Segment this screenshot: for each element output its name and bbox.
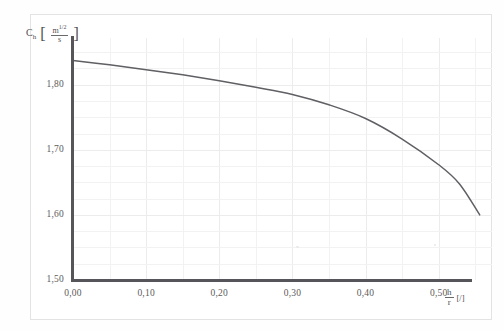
plot-area xyxy=(73,38,492,280)
y-unit-bracket-close: ] xyxy=(73,26,78,42)
y-axis-line xyxy=(71,36,74,282)
x-axis-line xyxy=(71,279,472,282)
x-tick-label: 0,20 xyxy=(199,288,239,298)
x-axis-title: h r [/] xyxy=(444,288,465,308)
data-line-ch xyxy=(73,61,480,215)
y-tick-label: 1,60 xyxy=(30,209,64,219)
x-axis-unit: [/] xyxy=(457,293,465,303)
scan-speck xyxy=(434,244,436,246)
x-axis-denominator: r xyxy=(446,298,453,307)
scan-speck xyxy=(296,246,299,248)
y-axis-title: Ch [ m1/2 s ] xyxy=(26,24,79,44)
y-axis-symbol: Ch xyxy=(26,27,36,41)
y-tick-label: 1,80 xyxy=(30,79,64,89)
x-tick-label: 0,10 xyxy=(126,288,166,298)
y-unit-bracket-open: [ xyxy=(40,26,45,42)
x-tick-label: 0,00 xyxy=(53,288,93,298)
y-tick-label: 1,70 xyxy=(30,144,64,154)
y-unit-denominator: s xyxy=(56,36,63,44)
y-unit-fraction: m1/2 s xyxy=(50,24,70,44)
y-tick-label: 1,50 xyxy=(30,274,64,284)
curve-ch xyxy=(73,38,492,280)
x-tick-label: 0,40 xyxy=(346,288,386,298)
x-tick-label: 0,30 xyxy=(272,288,312,298)
x-axis-fraction: h r xyxy=(444,288,455,308)
chart-page: 0,000,100,200,300,400,50 1,501,601,701,8… xyxy=(0,0,504,331)
